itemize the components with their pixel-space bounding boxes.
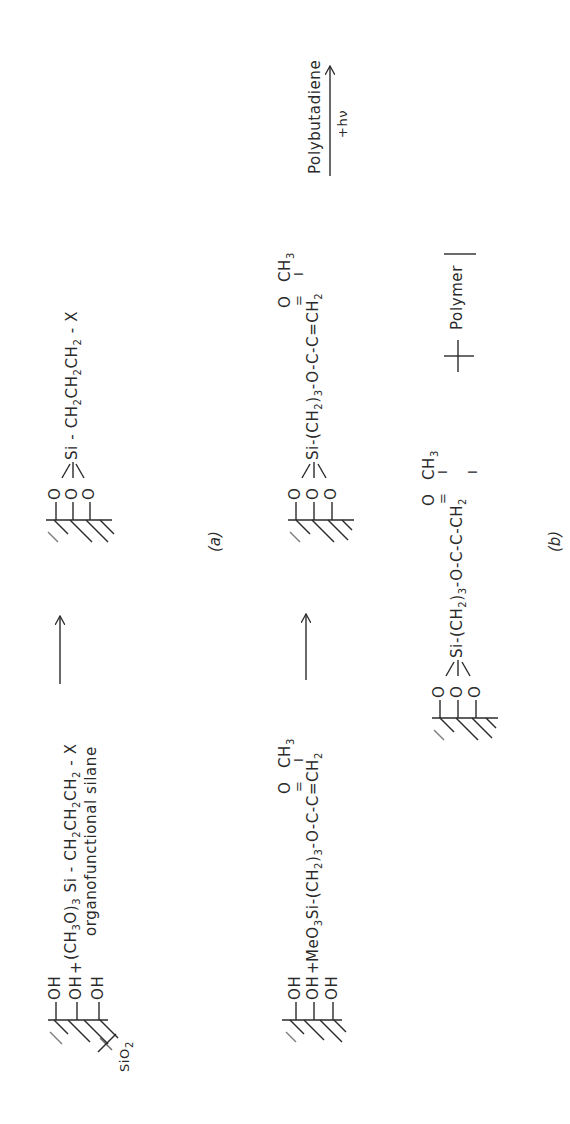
formula-subscript: 3 <box>285 738 296 745</box>
formula-subscript: 2 <box>72 369 83 376</box>
formula-subscript: 2 <box>313 752 324 759</box>
double-bond-mark: = <box>436 493 449 505</box>
single-bond-mark-bottom: I <box>466 470 479 474</box>
formula-subscript: 3 <box>313 389 324 396</box>
formula-subscript: 2 <box>72 339 83 346</box>
formula-part: Si-(CH <box>304 869 322 919</box>
single-bond-mark: I <box>292 758 305 762</box>
formula-subscript: 3 <box>313 849 324 856</box>
formula-subscript: 3 <box>313 919 324 926</box>
surface-oxygen-3: O <box>324 488 339 500</box>
silica-surface-row2-product <box>288 462 354 542</box>
surface-hydroxyl-1: OH <box>48 976 63 1000</box>
formula-part: -O-C-C-CH <box>448 505 466 587</box>
formula-subscript: 3 <box>285 252 296 259</box>
double-bond-mark: = <box>292 295 305 307</box>
line-art <box>0 0 570 1124</box>
reaction-scheme-canvas: OH OH OH + (CH3O)3 Si - CH2CH2CH2 - X or… <box>0 0 570 1124</box>
formula-subscript: 3 <box>71 924 82 931</box>
formula-part: CH <box>62 778 80 801</box>
plus-sign-row2: + <box>306 961 321 974</box>
reagent-caption: organofunctional silane <box>84 746 99 936</box>
surface-hydroxyl-2: OH <box>306 976 321 1000</box>
substrate-label-text: SiO <box>117 1048 132 1072</box>
methyl-group: CH3 <box>278 252 293 282</box>
formula-part: - X <box>63 311 81 339</box>
formula-part: CH <box>63 346 81 369</box>
single-bond-mark-top: I <box>436 470 449 474</box>
polymer-label: Polymer <box>450 265 465 330</box>
panel-label-b: (b) <box>546 531 564 552</box>
formula-part: ) <box>304 856 322 862</box>
formula-part: CH <box>63 375 81 398</box>
surface-hydroxyl-2: OH <box>69 976 84 1000</box>
formula-subscript: 3 <box>71 898 82 905</box>
methyl-group: CH3 <box>278 738 293 768</box>
formula-part: CH <box>276 745 294 768</box>
surface-oxygen-1: O <box>48 488 63 500</box>
surface-oxygen-2: O <box>65 488 80 500</box>
silica-surface-row3-product <box>432 660 498 740</box>
double-bond-mark: = <box>292 781 305 793</box>
polymer-grafted-formula: Si-(CH2)3-O-C-C-CH2 <box>450 498 465 658</box>
formula-subscript: 2 <box>313 293 324 300</box>
formula-part: ) <box>304 396 322 402</box>
formula-subscript: 2 <box>313 403 324 410</box>
surface-oxygen-2: O <box>450 686 465 698</box>
formula-part: CH <box>420 457 438 480</box>
substrate-label-subscript: 2 <box>124 1041 135 1048</box>
silica-surface-row1-product <box>46 462 114 542</box>
surface-hydroxyl-3: OH <box>325 976 340 1000</box>
formula-part: -O-C-C=CH <box>304 300 322 390</box>
surface-hydroxyl-3: OH <box>91 976 106 1000</box>
formula-part: Si - CH <box>62 838 80 898</box>
formula-subscript: 3 <box>429 450 440 457</box>
methacryloxypropyl-silane-formula: MeO3Si-(CH2)3-O-C-C=CH2 <box>306 752 321 962</box>
formula-subscript: 2 <box>313 862 324 869</box>
grafted-silane-formula: Si - CH2CH2CH2 - X <box>65 311 80 460</box>
arrow-label-condition: +hν <box>336 110 349 138</box>
substrate-label: SiO2 <box>118 1041 131 1072</box>
formula-part: Si-(CH <box>304 410 322 460</box>
formula-subscript: 2 <box>71 771 82 778</box>
formula-part: ) <box>448 594 466 600</box>
surface-hydroxyl-1: OH <box>288 976 303 1000</box>
formula-part: - X <box>62 743 80 771</box>
arrow-label-reagent: Polybutadiene <box>308 60 323 174</box>
surface-oxygen-2: O <box>306 488 321 500</box>
formula-part: CH <box>276 259 294 282</box>
grafted-methacrylate-formula: Si-(CH2)3-O-C-C=CH2 <box>306 293 321 460</box>
formula-part: (CH <box>62 931 80 960</box>
formula-part: CH <box>62 808 80 831</box>
formula-part: MeO <box>304 926 322 962</box>
formula-subscript: 2 <box>72 398 83 405</box>
figure-viewport: OH OH OH + (CH3O)3 Si - CH2CH2CH2 - X or… <box>0 0 570 1124</box>
formula-subscript: 2 <box>457 601 468 608</box>
silica-surface-row1-reactant <box>48 1002 118 1052</box>
surface-oxygen-1: O <box>288 488 303 500</box>
single-bond-mark: I <box>292 272 305 276</box>
surface-oxygen-1: O <box>432 686 447 698</box>
formula-subscript: 2 <box>71 801 82 808</box>
formula-subscript: 3 <box>457 587 468 594</box>
formula-part: O) <box>62 905 80 924</box>
surface-oxygen-3: O <box>468 686 483 698</box>
formula-part: Si - CH <box>63 405 81 460</box>
surface-oxygen-3: O <box>82 488 97 500</box>
formula-subscript: 2 <box>71 831 82 838</box>
organofunctional-silane-formula: (CH3O)3 Si - CH2CH2CH2 - X <box>64 743 79 960</box>
formula-part: Si-(CH <box>448 608 466 658</box>
plus-sign-row1: + <box>69 961 84 974</box>
formula-part: -O-C-C=CH <box>304 759 322 849</box>
silica-surface-row2-reactant <box>282 1002 346 1042</box>
methyl-group: CH3 <box>422 450 437 480</box>
formula-subscript: 2 <box>457 498 468 505</box>
panel-label-a: (a) <box>206 531 224 552</box>
